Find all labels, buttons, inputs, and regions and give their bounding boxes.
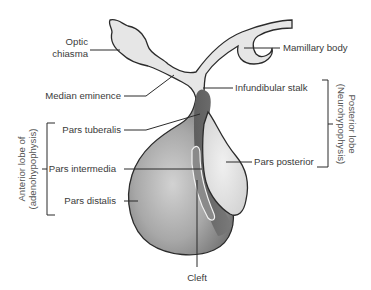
label-pars-tuberalis: Pars tuberalis — [62, 124, 121, 135]
label-anterior-lobe-2: (adenohypophysis) — [27, 128, 38, 209]
label-optic-chiasma-1: Optic — [66, 36, 89, 47]
label-infundibular-stalk: Infundibular stalk — [235, 82, 308, 93]
label-mamillary-body: Mamillary body — [283, 42, 348, 53]
leader-median-eminence — [124, 75, 174, 96]
label-pars-distalis: Pars distalis — [64, 195, 116, 206]
label-pars-intermedia: Pars intermedia — [49, 163, 117, 174]
label-posterior-lobe-1: Posterior lobe — [347, 94, 358, 153]
pituitary-diagram: Optic chiasma Mamillary body Median emin… — [0, 0, 371, 290]
label-pars-posterior: Pars posterior — [254, 156, 315, 167]
label-posterior-lobe-2: (Neurohypophysis) — [336, 84, 347, 165]
label-cleft: Cleft — [187, 272, 207, 283]
posterior-lobe-bracket — [317, 80, 328, 167]
label-median-eminence: Median eminence — [45, 90, 121, 101]
label-optic-chiasma-2: chiasma — [52, 48, 88, 59]
label-anterior-lobe-1: Anterior lobe of — [16, 136, 27, 201]
